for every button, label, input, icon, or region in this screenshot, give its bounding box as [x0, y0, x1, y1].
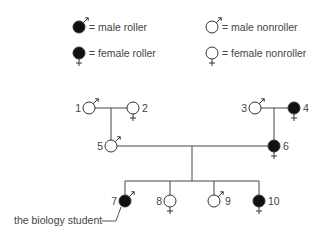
filled-circle-icon	[268, 140, 280, 152]
individual-number: 1	[75, 102, 81, 114]
pedigree-lines	[95, 108, 288, 195]
legend-symbol	[206, 47, 218, 66]
individual-6: 6	[268, 140, 289, 159]
individual-number: 2	[142, 102, 148, 114]
legend-symbol	[206, 18, 221, 33]
legend-symbol	[73, 47, 85, 66]
legend: = male roller= female roller= male nonro…	[73, 18, 307, 66]
female-symbol-icon	[256, 207, 262, 214]
individual-number: 4	[303, 102, 309, 114]
individual-5: 5	[97, 137, 120, 152]
female-symbol-icon	[76, 59, 82, 66]
individual-10: 10	[253, 195, 280, 214]
male-symbol-icon	[115, 137, 120, 142]
legend-label: = male roller	[89, 21, 148, 33]
individual-4: 4	[288, 102, 309, 121]
individual-2: 2	[127, 102, 148, 121]
filled-circle-icon	[288, 102, 300, 114]
individual-number: 3	[241, 102, 247, 114]
male-symbol-icon	[93, 99, 98, 104]
individual-3: 3	[241, 99, 264, 114]
individual-8: 8	[156, 195, 176, 214]
individual-number: 9	[225, 195, 231, 207]
male-symbol-icon	[129, 192, 134, 197]
open-circle-icon	[164, 195, 176, 207]
legend-label: = male nonroller	[222, 21, 298, 33]
filled-circle-icon	[73, 47, 85, 59]
male-symbol-icon	[83, 18, 88, 23]
female-symbol-icon	[130, 114, 136, 121]
individual-9: 9	[208, 192, 231, 207]
female-symbol-icon	[291, 114, 297, 121]
individual-number: 8	[156, 195, 162, 207]
male-symbol-icon	[259, 99, 264, 104]
legend-item-male-nonroller: = male nonroller	[206, 18, 298, 33]
legend-item-female-roller: = female roller	[73, 47, 156, 66]
individual-number: 5	[97, 140, 103, 152]
pedigree-diagram: = male roller= female roller= male nonro…	[0, 0, 329, 236]
female-symbol-icon	[271, 152, 277, 159]
legend-item-female-nonroller: = female nonroller	[206, 47, 307, 66]
female-symbol-icon	[167, 207, 173, 214]
legend-symbol	[73, 18, 88, 33]
individual-number: 10	[268, 195, 280, 207]
filled-circle-icon	[253, 195, 265, 207]
biology-student-label: the biology student	[14, 214, 102, 226]
open-circle-icon	[127, 102, 139, 114]
individual-number: 6	[283, 140, 289, 152]
legend-label: = female roller	[89, 47, 156, 59]
individual-1: 1	[75, 99, 98, 114]
female-symbol-icon	[209, 59, 215, 66]
individual-7: 7	[111, 192, 134, 207]
legend-label: = female nonroller	[222, 47, 307, 59]
male-symbol-icon	[218, 192, 223, 197]
legend-item-male-roller: = male roller	[73, 18, 148, 33]
open-circle-icon	[206, 47, 218, 59]
male-symbol-icon	[216, 18, 221, 23]
individual-number: 7	[111, 195, 117, 207]
annotation: the biology student	[14, 207, 121, 226]
biology-student-leader-line	[102, 207, 121, 221]
